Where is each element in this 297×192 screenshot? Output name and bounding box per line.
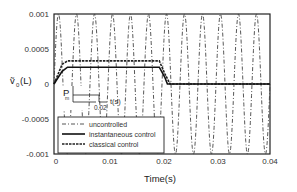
legend-classical-control: classical control: [89, 141, 139, 148]
y-axis-label-main: ṽ: [10, 75, 15, 86]
x-tick-label: 0.03: [210, 157, 226, 166]
inset-t-label: t(s): [110, 97, 121, 106]
y-tick-label: -0.001: [26, 150, 49, 159]
x-axis-label: Time(s): [144, 173, 176, 184]
x-tick-label: 0.02: [156, 157, 172, 166]
y-tick-label: 0: [45, 80, 50, 89]
x-tick-label: 0.04: [262, 157, 278, 166]
y-axis-label: ṽ 0 (L): [10, 75, 32, 88]
legend: uncontrolled instantaneous control class…: [58, 117, 164, 153]
x-axis: 0 0.01 0.02 0.03 0.04: [54, 157, 279, 166]
inset-m-label: m: [65, 95, 69, 101]
legend-uncontrolled: uncontrolled: [89, 121, 127, 128]
x-tick-label: 0: [54, 157, 59, 166]
y-tick-label: -0.0005: [22, 115, 50, 124]
y-axis-label-tail: (L): [20, 75, 32, 86]
y-tick-label: 0.0005: [25, 45, 50, 54]
y-tick-label: 0.001: [29, 10, 50, 19]
chart: 0.001 0.0005 0 -0.0005 -0.001 0 0.01 0.0…: [0, 0, 297, 192]
x-tick-label: 0.01: [102, 157, 118, 166]
inset-tick-label: 0.02: [94, 104, 107, 111]
legend-instantaneous-control: instantaneous control: [89, 131, 156, 138]
